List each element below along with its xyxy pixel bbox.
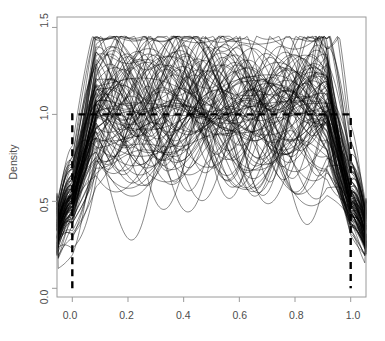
x-tick-label-0.0: 0.0 (63, 309, 78, 321)
x-tick-label-0.2: 0.2 (119, 309, 134, 321)
y-tick-label-0.0: 0.0 (38, 290, 50, 305)
density-plot-figure: 1.5 1.0 0.5 0.0 0.0 0.2 0.4 0.6 0.8 1.0 … (0, 0, 385, 341)
x-tick-label-0.6: 0.6 (232, 309, 247, 321)
x-axis-tick-group (72, 297, 350, 302)
plot-canvas: 1.5 1.0 0.5 0.0 0.0 0.2 0.4 0.6 0.8 1.0 … (0, 0, 385, 341)
x-tick-label-0.8: 0.8 (289, 309, 304, 321)
y-tick-label-1.5: 1.5 (38, 13, 50, 28)
y-axis-title: Density (7, 144, 19, 180)
y-tick-label-0.5: 0.5 (38, 198, 50, 213)
x-tick-label-0.4: 0.4 (176, 309, 191, 321)
y-tick-label-1.0: 1.0 (38, 106, 50, 121)
x-tick-label-1.0: 1.0 (346, 309, 361, 321)
y-axis-tick-group (52, 27, 57, 288)
